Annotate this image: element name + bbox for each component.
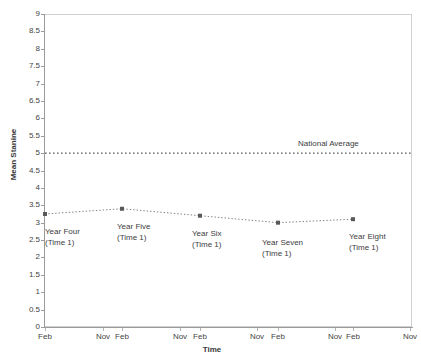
x-tick-label: Feb (261, 332, 295, 341)
data-point-label-line1: Year Seven (262, 237, 303, 248)
data-point-label: Year Five(Time 1) (117, 221, 151, 243)
y-axis-line (44, 14, 45, 328)
y-tick-mark (41, 205, 44, 206)
y-tick-mark (41, 118, 44, 119)
y-tick-label: 7 (0, 80, 40, 88)
y-tick-label: 6 (0, 114, 40, 122)
x-tick-mark (278, 328, 279, 331)
data-point-label-line1: Year Eight (349, 231, 386, 242)
y-tick-mark (41, 188, 44, 189)
data-point-label-line1: Year Four (45, 226, 80, 237)
x-axis-line (44, 327, 413, 328)
x-tick-label: Feb (336, 332, 370, 341)
y-tick-label: 5 (0, 149, 40, 157)
y-tick-label: 0.5 (0, 306, 40, 314)
y-tick-mark (41, 84, 44, 85)
data-point-label-line1: Year Five (117, 221, 151, 232)
y-tick-label: 2.5 (0, 236, 40, 244)
x-tick-label: Nov (393, 332, 421, 341)
y-tick-mark (41, 171, 44, 172)
x-tick-label: Feb (183, 332, 217, 341)
x-axis-title: Time (172, 345, 252, 354)
y-tick-label: 4.5 (0, 167, 40, 175)
y-tick-mark (41, 257, 44, 258)
y-tick-label: 6.5 (0, 97, 40, 105)
data-point-label: Year Six(Time 1) (192, 228, 222, 250)
y-tick-mark (41, 292, 44, 293)
x-tick-mark (257, 328, 258, 331)
x-tick-label: Feb (28, 332, 62, 341)
chart-container: Mean Stanine 98.587.576.565.554.543.532.… (0, 0, 421, 360)
data-point-label-line2: (Time 1) (117, 232, 151, 243)
y-tick-label: 9 (0, 10, 40, 18)
data-point-label-line2: (Time 1) (45, 237, 80, 248)
y-tick-mark (41, 49, 44, 50)
y-tick-label: 2 (0, 253, 40, 261)
y-tick-label: 1.5 (0, 271, 40, 279)
national-average-annotation: National Average (298, 139, 359, 148)
data-point-label: Year Eight(Time 1) (349, 231, 386, 253)
y-tick-mark (41, 136, 44, 137)
y-tick-label: 1 (0, 288, 40, 296)
y-tick-mark (41, 223, 44, 224)
y-tick-mark (41, 275, 44, 276)
plot-area (44, 14, 412, 327)
x-tick-mark (353, 328, 354, 331)
y-tick-mark (41, 14, 44, 15)
y-tick-mark (41, 66, 44, 67)
data-point-label-line2: (Time 1) (349, 242, 386, 253)
y-tick-label: 3 (0, 219, 40, 227)
x-tick-mark (122, 328, 123, 331)
y-tick-label: 8.5 (0, 27, 40, 35)
x-tick-mark (410, 328, 411, 331)
y-tick-label: 8 (0, 45, 40, 53)
data-point-label-line2: (Time 1) (192, 239, 222, 250)
y-tick-mark (41, 240, 44, 241)
data-point-label: Year Four(Time 1) (45, 226, 80, 248)
data-point-label-line2: (Time 1) (262, 248, 303, 259)
x-tick-mark (103, 328, 104, 331)
y-tick-label: 4 (0, 184, 40, 192)
x-tick-mark (180, 328, 181, 331)
x-tick-mark (45, 328, 46, 331)
y-tick-label: 7.5 (0, 62, 40, 70)
data-point-label: Year Seven(Time 1) (262, 237, 303, 259)
y-tick-mark (41, 101, 44, 102)
y-tick-mark (41, 153, 44, 154)
y-tick-mark (41, 31, 44, 32)
y-tick-label: 0 (0, 323, 40, 331)
y-tick-mark (41, 310, 44, 311)
y-tick-label: 3.5 (0, 201, 40, 209)
x-tick-mark (335, 328, 336, 331)
y-tick-label: 5.5 (0, 132, 40, 140)
data-point-label-line1: Year Six (192, 228, 222, 239)
x-tick-mark (200, 328, 201, 331)
x-tick-label: Feb (105, 332, 139, 341)
